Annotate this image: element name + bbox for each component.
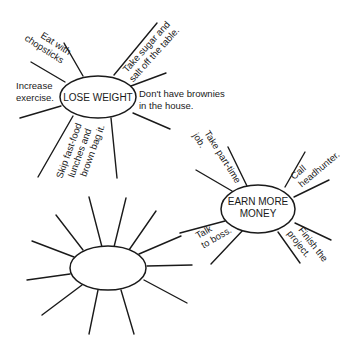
branch-line [20, 106, 61, 118]
cluster-lose-weight: LOSE WEIGHT Eat with chopsticks Increase… [16, 18, 225, 188]
branch-line [129, 211, 156, 250]
branch-line [56, 215, 83, 250]
svg-text:Increase: Increase [16, 80, 52, 91]
branch-label-take-part-time-job: Take part-time job. [190, 124, 243, 191]
branch-line [27, 274, 70, 280]
branch-label-take-sugar-and-salt: Take sugar and salt off the table. [118, 18, 181, 84]
branch-label-increase-exercise: Increase exercise. [16, 80, 54, 103]
branch-line [111, 118, 117, 178]
branch-label-finish-the-project: Finish the project. [285, 221, 330, 270]
cluster-blank-goal [27, 197, 192, 334]
goal-ellipse-empty [70, 246, 146, 290]
goal-label: LOSE WEIGHT [63, 92, 132, 103]
branch-line [133, 113, 170, 129]
goal-label-line-1: EARN MORE [228, 196, 289, 207]
cluster-earn-more-money: EARN MORE MONEY Take part-time job. Call… [180, 124, 342, 270]
branch-line [139, 236, 181, 254]
svg-text:Don't have brownies: Don't have brownies [139, 88, 225, 99]
branch-line [144, 280, 187, 303]
branch-line [196, 170, 232, 191]
svg-text:in the house.: in the house. [139, 100, 193, 111]
branch-label-dont-have-brownies: Don't have brownies in the house. [139, 88, 225, 111]
branch-line [89, 197, 102, 247]
goal-label-line-2: MONEY [240, 208, 277, 219]
branch-line [32, 241, 74, 257]
branch-line [121, 290, 134, 334]
svg-text:exercise.: exercise. [16, 92, 54, 103]
branch-label-skip-fast-food: Skip fast-food lunches and brown bag it. [54, 115, 107, 187]
branch-line [42, 285, 82, 315]
branch-line [89, 290, 98, 334]
mind-map-canvas: LOSE WEIGHT Eat with chopsticks Increase… [0, 0, 356, 351]
branch-line [147, 265, 192, 266]
branch-label-call-headhunter: Call headhunter. [288, 140, 341, 190]
branch-label-eat-with-chopsticks: Eat with chopsticks [23, 23, 73, 66]
branch-line [114, 198, 126, 247]
